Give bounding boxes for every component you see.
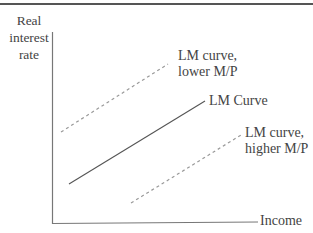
label-lm-curve-text: LM Curve	[209, 93, 268, 109]
lm-curve	[69, 101, 205, 184]
x-axis-label: Income	[260, 213, 302, 229]
x-axis	[52, 222, 258, 224]
label-lm-higher-mp-line-2: higher M/P	[245, 141, 308, 157]
lm-diagram	[0, 0, 313, 233]
label-lm-lower-mp-line-2: lower M/P	[178, 64, 238, 80]
label-lm-higher-mp: LM curve, higher M/P	[245, 125, 308, 157]
lm-curve-higher-mp	[131, 135, 241, 203]
lm-curve-lower-mp	[61, 64, 168, 132]
label-lm-higher-mp-line-1: LM curve,	[245, 125, 308, 141]
label-lm-lower-mp-line-1: LM curve,	[178, 48, 238, 64]
label-lm-lower-mp: LM curve, lower M/P	[178, 48, 238, 80]
label-lm-curve: LM Curve	[209, 93, 268, 109]
